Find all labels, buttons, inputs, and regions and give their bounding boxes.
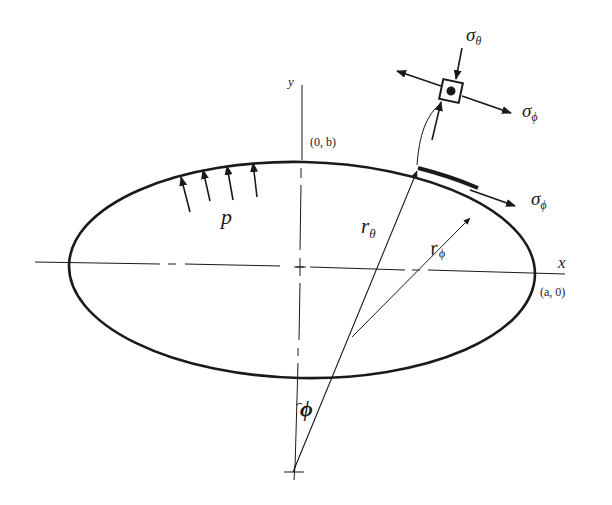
shell-ellipse xyxy=(67,157,537,383)
shell-diagram xyxy=(0,0,612,505)
phi-angle-label: ϕ xyxy=(300,396,313,422)
sigma-phi-element-sub: ϕ xyxy=(531,111,537,124)
r-theta-base: r xyxy=(361,214,369,238)
r-theta-label: rθ xyxy=(361,214,376,239)
sigma-phi-tangent-arrow xyxy=(470,190,515,206)
sigma-phi-tangent-base: σ xyxy=(531,188,540,209)
shell-segment-highlight xyxy=(418,168,478,188)
point-top-label: (0, b) xyxy=(310,135,336,150)
sigma-phi-element-base: σ xyxy=(522,100,531,121)
sigma-theta-sub: θ xyxy=(475,35,481,48)
sigma-theta-label: σθ xyxy=(466,24,481,46)
sigma-theta-base: σ xyxy=(466,24,475,45)
pressure-arrows xyxy=(181,163,257,212)
sigma-phi-tangent-sub: ϕ xyxy=(540,199,546,212)
diagram-stage: y (0, b) x (a, 0) p rθ rϕ ϕ σθ σϕ σϕ xyxy=(0,0,612,505)
stress-element xyxy=(439,79,463,103)
x-axis-label: x xyxy=(558,253,566,273)
element-arrow-left xyxy=(397,71,441,86)
element-arrow-top xyxy=(456,48,462,79)
y-axis-label: y xyxy=(288,74,294,90)
element-arrow-right xyxy=(462,96,511,113)
sigma-phi-element-label: σϕ xyxy=(522,100,537,122)
pressure-label: p xyxy=(221,204,232,230)
sigma-phi-tangent-label: σϕ xyxy=(531,188,546,210)
r-theta-sub: θ xyxy=(369,226,375,241)
r-theta-line xyxy=(293,171,417,472)
point-right-label: (a, 0) xyxy=(540,285,565,300)
r-phi-label: rϕ xyxy=(428,235,445,260)
element-leader-curve xyxy=(417,104,440,165)
